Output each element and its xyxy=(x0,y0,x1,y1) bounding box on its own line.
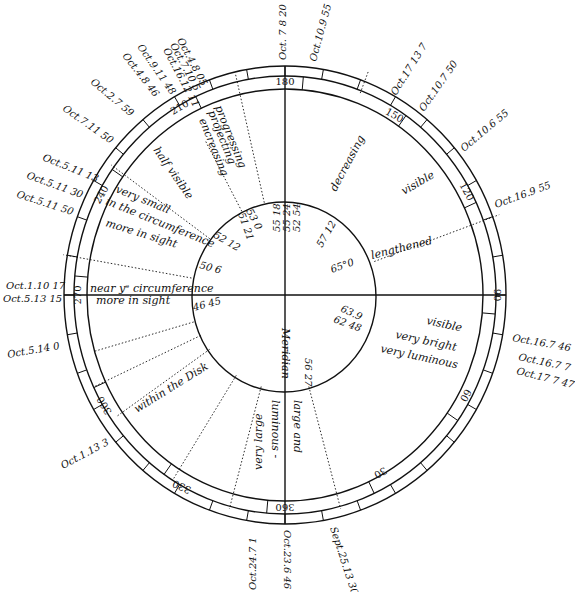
date-label: Oct.17 13 7 xyxy=(388,41,429,98)
ring-tick xyxy=(464,202,476,207)
ring-tick xyxy=(447,413,458,420)
ring-tick xyxy=(209,501,212,510)
date-label: Oct.16.9 55 xyxy=(493,179,552,210)
degree-label: 300 xyxy=(95,394,114,416)
dotted-ray xyxy=(95,322,194,351)
date-label: Oct.10.7 50 xyxy=(417,58,460,113)
diagram-canvas: 180150120906030360330300270240210 Oct. 7… xyxy=(0,0,575,592)
annotation-note: visible xyxy=(399,168,437,197)
ring-tick xyxy=(143,120,149,128)
date-label: Oct.10.6 55 xyxy=(458,107,510,153)
inner-value-label: 46 45 xyxy=(191,295,222,313)
ring-tick xyxy=(447,436,455,442)
date-label: Oct.5.13 15 xyxy=(3,293,62,304)
annotation-notes: progressingprojectingencreasinghalf visi… xyxy=(90,103,464,470)
ring-tick xyxy=(94,382,106,387)
ring-tick xyxy=(391,97,396,106)
annotation-note: decreasing xyxy=(327,133,367,193)
ring-tick xyxy=(447,148,455,154)
ring-tick xyxy=(369,482,374,494)
degree-label: 90 xyxy=(492,289,503,302)
dotted-ray xyxy=(117,349,210,416)
date-label: Oct.2.7 59 xyxy=(89,76,137,119)
ring-tick xyxy=(77,217,86,220)
comet-observation-diagram: 180150120906030360330300270240210 Oct. 7… xyxy=(0,0,575,592)
ring-tick xyxy=(483,370,492,373)
ring-tick xyxy=(116,436,124,442)
date-label: Oct.7.11 50 xyxy=(61,103,116,146)
annotation-note: large and xyxy=(291,400,304,453)
inner-value-label: 57 12 xyxy=(314,219,338,249)
ring-tick xyxy=(322,511,324,521)
ring-tick xyxy=(357,80,360,89)
ring-tick xyxy=(468,405,477,410)
inner-value-label: 52 54 xyxy=(291,203,302,232)
ring-tick xyxy=(247,511,249,521)
ring-tick xyxy=(421,120,427,128)
ring-tick xyxy=(391,485,396,494)
date-label: Oct. 7 8 20 xyxy=(277,3,288,60)
dotted-ray xyxy=(174,375,237,478)
ring-tick xyxy=(67,255,77,257)
ring-tick xyxy=(482,313,495,314)
annotation-note: visible xyxy=(425,314,463,334)
degree-label: 270 xyxy=(72,285,83,304)
ring-tick xyxy=(116,148,124,154)
annotation-note: lengthened xyxy=(370,234,434,262)
ring-tick xyxy=(267,500,268,513)
inner-value-label: 56 27 xyxy=(303,358,314,387)
date-label: Oct.23.6 46 xyxy=(282,530,293,590)
annotation-note: luminous - xyxy=(269,400,282,458)
ring-tick xyxy=(75,276,88,277)
date-label: Oct.10.9 55 xyxy=(307,3,333,63)
dotted-ray xyxy=(63,255,191,278)
ring-tick xyxy=(302,77,303,90)
ring-tick xyxy=(322,69,324,79)
ring-tick xyxy=(493,255,503,257)
ring-tick xyxy=(247,69,249,79)
date-label: Oct.1.13 3 xyxy=(59,436,111,471)
date-label: Oct.16.7 46 xyxy=(512,332,573,353)
date-label: Sept.25.13 30 xyxy=(328,525,361,592)
ring-tick xyxy=(112,169,123,176)
annotation-note: very large xyxy=(252,413,265,470)
ring-tick xyxy=(493,333,503,335)
degree-label: 360 xyxy=(275,502,294,513)
inner-value-label: 50 6 xyxy=(198,259,223,276)
dotted-ray xyxy=(309,387,341,509)
ring-tick xyxy=(483,217,492,220)
degree-label: 180 xyxy=(275,76,294,87)
inner-value-label: 52 12 xyxy=(212,229,242,253)
ring-tick xyxy=(357,501,360,510)
date-label: Oct.24.7 1 xyxy=(247,537,258,590)
inner-value-label: 65°0 xyxy=(329,256,356,275)
annotation-note: Meridian xyxy=(279,327,292,379)
ring-tick xyxy=(67,333,77,335)
annotation-note: half visible xyxy=(151,144,197,202)
annotation-note: more in sight xyxy=(96,294,171,307)
ring-tick xyxy=(421,463,427,471)
dotted-ray xyxy=(236,74,265,202)
date-label: Oct.5.14 0 xyxy=(6,340,61,360)
ring-tick xyxy=(77,370,86,373)
ring-tick xyxy=(164,464,171,475)
ring-tick xyxy=(143,463,149,471)
date-label: Oct.1.10 17 xyxy=(6,280,66,291)
annotation-note: within the Disk xyxy=(132,359,211,415)
